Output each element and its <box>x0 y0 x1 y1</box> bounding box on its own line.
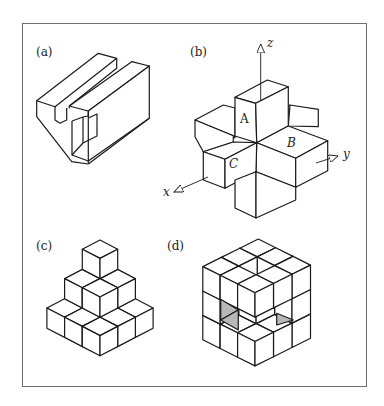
panel-label-d: (d) <box>167 240 184 252</box>
panel-a-object <box>37 53 150 164</box>
axis-label-z: z <box>267 37 273 49</box>
x-axis-arrow <box>174 177 208 192</box>
panel-label-b: (b) <box>190 46 207 58</box>
panel-label-a: (a) <box>36 46 53 58</box>
face-label-b: B <box>287 137 296 149</box>
figure-drawing <box>0 0 384 406</box>
face-label-c: C <box>229 158 238 170</box>
axis-label-x: x <box>163 186 170 198</box>
panel-label-c: (c) <box>36 240 52 252</box>
panel-b-object <box>195 80 328 218</box>
panel-d-object <box>203 239 311 366</box>
axis-label-y: y <box>343 148 350 160</box>
panel-c-object <box>47 240 153 356</box>
face-label-a: A <box>240 113 249 125</box>
